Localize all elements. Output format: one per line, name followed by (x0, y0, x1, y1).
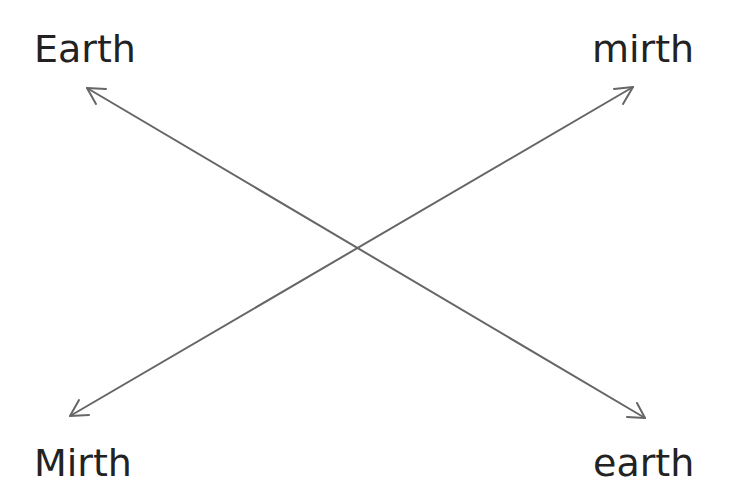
mirth-double-arrow-line (70, 87, 633, 416)
earth-double-arrow-line (87, 88, 645, 418)
crossing-arrows (0, 0, 735, 503)
